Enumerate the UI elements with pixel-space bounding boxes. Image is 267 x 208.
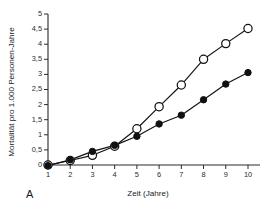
- data-point-open-circle: [222, 40, 230, 48]
- data-point-filled-circle: [200, 97, 206, 103]
- series-line-open: [48, 29, 248, 166]
- x-tick-label: 8: [201, 170, 205, 179]
- x-tick-label: 10: [244, 170, 252, 179]
- y-axis-label: Mortalität pro 1.000 Personen-Jahre: [7, 27, 16, 157]
- x-tick-label: 9: [224, 170, 228, 179]
- x-tick-label: 2: [68, 170, 72, 179]
- series-line-filled: [48, 73, 248, 166]
- data-point-filled-circle: [89, 148, 95, 154]
- y-tick-label: 3: [38, 69, 42, 78]
- y-tick-label: 0,5: [32, 145, 42, 154]
- y-tick-label: 2,5: [32, 84, 42, 93]
- data-point-filled-circle: [223, 81, 229, 87]
- data-point-filled-circle: [45, 162, 51, 168]
- data-point-open-circle: [155, 103, 163, 111]
- x-tick-label: 6: [157, 170, 161, 179]
- y-axis-ticks: 00,511,522,533,544,55: [32, 9, 48, 169]
- y-tick-label: 2: [38, 100, 42, 109]
- y-tick-label: 4,5: [32, 24, 42, 33]
- chart-canvas: 00,511,522,533,544,55 12345678910 Mortal…: [0, 0, 267, 208]
- panel-letter: A: [26, 188, 34, 200]
- data-point-filled-circle: [111, 142, 117, 148]
- y-tick-label: 3,5: [32, 54, 42, 63]
- y-tick-label: 5: [38, 9, 42, 18]
- x-axis-ticks: 12345678910: [46, 165, 252, 179]
- y-tick-label: 1,5: [32, 115, 42, 124]
- data-point-filled-circle: [245, 69, 251, 75]
- chart-axes: [48, 14, 260, 165]
- figure-panel-a: 00,511,522,533,544,55 12345678910 Mortal…: [0, 0, 267, 208]
- y-tick-label: 4: [38, 39, 42, 48]
- x-axis-label: Zeit (Jahre): [127, 189, 169, 198]
- data-point-open-circle: [133, 125, 141, 133]
- x-tick-label: 1: [46, 170, 50, 179]
- x-tick-label: 3: [90, 170, 94, 179]
- data-point-open-circle: [244, 24, 252, 32]
- y-tick-label: 1: [38, 130, 42, 139]
- x-tick-label: 7: [179, 170, 183, 179]
- chart-series: [44, 24, 252, 169]
- x-tick-label: 5: [135, 170, 139, 179]
- data-point-filled-circle: [67, 157, 73, 163]
- data-point-filled-circle: [134, 133, 140, 139]
- x-tick-label: 4: [113, 170, 117, 179]
- data-point-open-circle: [199, 55, 207, 63]
- data-point-filled-circle: [156, 121, 162, 127]
- data-point-open-circle: [177, 81, 185, 89]
- y-tick-label: 0: [38, 160, 42, 169]
- data-point-filled-circle: [178, 112, 184, 118]
